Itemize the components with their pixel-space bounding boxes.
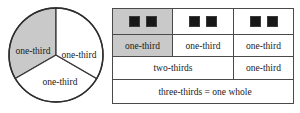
square-tile-icon bbox=[267, 16, 278, 27]
fraction-diagram: one-third one-third one-third bbox=[0, 0, 300, 113]
pie-label-left: one-third bbox=[16, 46, 51, 56]
tile-pair bbox=[250, 16, 278, 27]
mixed-one-third-cell: one-third bbox=[234, 57, 293, 79]
pie-chart: one-third one-third one-third bbox=[7, 6, 105, 104]
thirds-cell-2: one-third bbox=[173, 35, 234, 56]
pie-label-right: one-third bbox=[62, 50, 97, 60]
tiles-cell-2 bbox=[173, 9, 234, 34]
thirds-cell-1: one-third bbox=[113, 35, 173, 56]
tiles-cell-1 bbox=[113, 9, 173, 34]
table-row-thirds: one-third one-third one-third bbox=[113, 35, 293, 57]
square-tile-icon bbox=[146, 16, 157, 27]
tile-pair bbox=[129, 16, 157, 27]
tile-pair bbox=[189, 16, 217, 27]
fraction-table: one-third one-third one-third two-thirds… bbox=[112, 8, 294, 104]
table-row-mixed: two-thirds one-third bbox=[113, 57, 293, 80]
table-row-tiles bbox=[113, 9, 293, 35]
table-row-whole: three-thirds = one whole bbox=[113, 80, 293, 103]
square-tile-icon bbox=[250, 16, 261, 27]
square-tile-icon bbox=[129, 16, 140, 27]
pie-chart-svg: one-third one-third one-third bbox=[7, 6, 105, 104]
three-thirds-cell: three-thirds = one whole bbox=[113, 80, 293, 103]
thirds-cell-3: one-third bbox=[234, 35, 293, 56]
tiles-cell-3 bbox=[234, 9, 293, 34]
two-thirds-cell: two-thirds bbox=[113, 57, 234, 79]
square-tile-icon bbox=[189, 16, 200, 27]
pie-label-bottom: one-third bbox=[43, 77, 78, 87]
square-tile-icon bbox=[206, 16, 217, 27]
